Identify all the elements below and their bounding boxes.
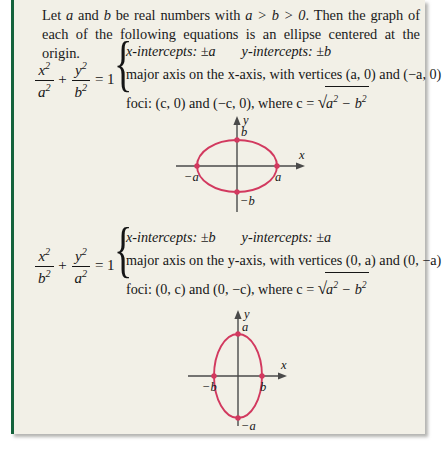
fraction-x-over-a-squared: x2 a2	[35, 60, 54, 101]
equals-one: = 1	[95, 71, 115, 87]
foci-text: foci: (0, c) and (0, −c), where c =	[126, 281, 314, 297]
square-root-expression-1: √a2 − b2	[318, 86, 369, 115]
panel-background: Let a and b be real numbers with a > b >…	[14, 0, 425, 434]
foci-row-1: foci: (c, 0) and (−c, 0), where c = √a2 …	[126, 86, 441, 109]
x-intercepts-value: ±b	[201, 229, 216, 245]
radicand: a2 − b2	[325, 86, 369, 115]
fraction-denominator: b2	[35, 267, 54, 287]
square-root-expression-2: √a2 − b2	[318, 272, 369, 301]
fraction-denominator: a2	[72, 267, 91, 287]
fraction-numerator: y2	[72, 246, 91, 267]
x-intercepts-label: x-intercepts:	[126, 43, 197, 59]
y-axis-label-2: y	[242, 307, 250, 321]
equals-one: = 1	[95, 257, 115, 273]
properties-list-1: x-intercepts: ±ay-intercepts: ±b major a…	[126, 40, 441, 109]
major-axis-row-2: major axis on the y-axis, with vertices …	[126, 249, 441, 272]
left-vertex-label-2: −b	[202, 380, 217, 394]
top-vertex-label-2: a	[242, 320, 248, 334]
fraction-denominator: b2	[72, 81, 91, 101]
intro-var-b: b	[104, 7, 111, 23]
intro-text-part3: be real numbers with	[111, 7, 245, 23]
plus-sign: +	[58, 257, 66, 273]
intro-text-part1: Let	[42, 7, 66, 23]
bottom-vertex-label-2: −a	[241, 419, 256, 430]
intercepts-row-1: x-intercepts: ±ay-intercepts: ±b	[126, 40, 441, 63]
right-vertex-label-1: a	[275, 170, 281, 184]
x-axis-label-2: x	[280, 358, 287, 372]
bottom-vertex-label-1: −b	[240, 194, 255, 208]
left-vertex-label-1: −a	[184, 170, 199, 184]
x-axis-label-1: x	[298, 148, 305, 162]
definition-panel: Let a and b be real numbers with a > b >…	[11, 0, 425, 434]
ellipse-graph-horizontal: y x b −b −a a	[162, 110, 312, 218]
fraction-y-over-b-squared: y2 b2	[72, 60, 91, 101]
y-intercepts-value: ±a	[316, 229, 331, 245]
ellipse-block-horizontal: x2 a2 + y2 b2 = 1 { x-intercepts: ±ay-in…	[14, 36, 428, 112]
top-vertex-label-1: b	[241, 125, 247, 139]
intro-condition: a > b > 0	[245, 7, 305, 23]
equation-1: x2 a2 + y2 b2 = 1	[34, 60, 115, 101]
ellipse-block-vertical: x2 b2 + y2 a2 = 1 { x-intercepts: ±by-in…	[14, 222, 428, 298]
intro-text-part2: and	[73, 7, 103, 23]
y-intercepts-value: ±b	[316, 43, 331, 59]
plus-sign: +	[58, 71, 66, 87]
radicand: a2 − b2	[325, 272, 369, 301]
fraction-numerator: y2	[72, 60, 91, 81]
foci-text: foci: (c, 0) and (−c, 0), where c =	[126, 95, 314, 111]
properties-list-2: x-intercepts: ±by-intercepts: ±a major a…	[126, 226, 441, 295]
fraction-numerator: x2	[35, 246, 54, 267]
y-intercepts-label: y-intercepts:	[242, 229, 313, 245]
ellipse-graph-vertical: y x a −a −b b	[174, 306, 302, 430]
x-intercepts-value: ±a	[201, 43, 216, 59]
textbook-page: Let a and b be real numbers with a > b >…	[0, 0, 445, 450]
right-vertex-label-2: b	[260, 380, 266, 394]
y-intercepts-label: y-intercepts:	[242, 43, 313, 59]
fraction-y-over-a-squared: y2 a2	[72, 246, 91, 287]
fraction-x-over-b-squared: x2 b2	[35, 246, 54, 287]
intercepts-row-2: x-intercepts: ±by-intercepts: ±a	[126, 226, 441, 249]
fraction-numerator: x2	[35, 60, 54, 81]
major-axis-row-1: major axis on the x-axis, with vertices …	[126, 63, 441, 86]
fraction-denominator: a2	[35, 81, 54, 101]
equation-2: x2 b2 + y2 a2 = 1	[34, 246, 115, 287]
foci-row-2: foci: (0, c) and (0, −c), where c = √a2 …	[126, 272, 441, 295]
x-intercepts-label: x-intercepts:	[126, 229, 197, 245]
